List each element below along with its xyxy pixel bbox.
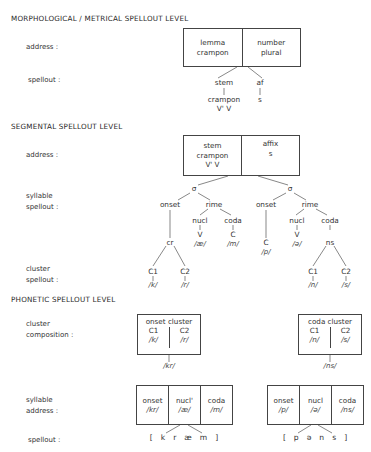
node-nucl-1: nucl (192, 216, 207, 225)
phon-s: /s/ (342, 281, 350, 290)
divider (169, 327, 170, 348)
segment: p (294, 433, 299, 442)
c2-phon: /r/ (169, 335, 200, 344)
cell-label: onset (143, 396, 163, 406)
phon-n: /n/ (308, 281, 317, 290)
node-C2-coda: C2 (341, 267, 351, 276)
node-C1-coda: C1 (308, 267, 318, 276)
phon-m: /m/ (227, 240, 239, 249)
cell-label: nucl (308, 396, 323, 406)
heading-morphological: MORPHOLOGICAL / METRICAL SPELLOUT LEVEL (11, 14, 188, 23)
syllable-address-box-1: onset /kr/ nucl' /æ/ coda /m/ (136, 385, 233, 425)
heading-phonetic: PHONETIC SPELLOUT LEVEL (11, 295, 116, 304)
col-c2: C2 /s/ (330, 326, 361, 344)
segment: r (173, 433, 176, 442)
segment: k (161, 433, 165, 442)
node-crampon: crampon (208, 95, 240, 104)
node-C-coda-1: C (230, 230, 235, 239)
segment: n (319, 433, 324, 442)
node-coda-2: coda (321, 216, 339, 225)
c1-phon: /k/ (138, 335, 169, 344)
cell-label: onset (274, 396, 294, 406)
node-metrical: V' V (217, 104, 231, 113)
cell-text: crampon (197, 48, 229, 58)
cell-text: V' V (205, 160, 219, 170)
cell-onset: onset /p/ (268, 386, 299, 424)
label-spellout: spellout : (26, 202, 58, 213)
cell-phon: /p/ (279, 405, 288, 415)
cell-phon: /kr/ (147, 405, 159, 415)
c1-phon: /n/ (299, 335, 330, 344)
cell-phon: /æ/ (179, 405, 191, 415)
onset-cluster-result: /kr/ (163, 362, 175, 371)
node-C-onset-2: C (263, 238, 268, 247)
cell-text: number (257, 38, 285, 48)
label-cluster: cluster (26, 319, 50, 330)
node-ns: ns (326, 238, 334, 247)
cell-coda: coda /ns/ (331, 386, 363, 424)
coda-cluster-result: /ns/ (324, 362, 337, 371)
c2-label: C2 (169, 326, 200, 335)
phon-k: /k/ (149, 281, 158, 290)
segment: s (332, 433, 336, 442)
node-cr: cr (166, 238, 173, 247)
phonetic-spellout-2: [pəns] (279, 433, 351, 442)
onset-cluster-box: onset cluster C1 /k/ C2 /r/ (137, 314, 201, 355)
cell-number: number plural (242, 29, 301, 66)
node-onset-1: onset (160, 200, 180, 209)
label-composition: composition : (26, 330, 73, 341)
label-spellout: spellout : (26, 275, 58, 286)
label-spellout: spellout : (28, 75, 60, 86)
bracket-open: [ (150, 433, 153, 442)
node-sigma-1: σ (192, 184, 197, 193)
segment: m (200, 433, 207, 442)
node-rime-2: rime (302, 200, 319, 209)
node-V-1: V (198, 230, 203, 239)
segment: ə (307, 433, 312, 442)
cell-text: stem (204, 141, 222, 151)
label-syllable: syllable (26, 395, 53, 406)
coda-cluster-title: coda cluster (299, 317, 361, 326)
cell-phon: /m/ (211, 405, 223, 415)
node-onset-2: onset (256, 200, 276, 209)
phon-schwa: /ə/ (292, 240, 301, 249)
node-rime-1: rime (206, 200, 223, 209)
bracket-close: ] (215, 433, 218, 442)
syllable-address-box-2: onset /p/ nucl /ə/ coda /ns/ (267, 385, 364, 425)
onset-cluster-title: onset cluster (138, 317, 200, 326)
cell-text: lemma (200, 38, 225, 48)
divider (330, 327, 331, 348)
c2-phon: /s/ (330, 335, 361, 344)
segment: æ (184, 433, 191, 442)
label-address: address : (26, 42, 58, 53)
c1-label: C1 (138, 326, 169, 335)
bracket-open: [ (283, 433, 286, 442)
phonetic-spellout-1: [kræm] (146, 433, 222, 442)
cell-text: affix (263, 139, 279, 149)
cell-label: nucl' (176, 396, 193, 406)
cell-phon: /ns/ (341, 405, 354, 415)
node-af: af (256, 78, 263, 87)
node-coda-1: coda (224, 216, 242, 225)
cell-phon: /ə/ (311, 405, 320, 415)
cell-nucleus: nucl /ə/ (299, 386, 331, 424)
label-address: address : (26, 150, 58, 161)
phon-ae: /æ/ (194, 240, 206, 249)
cell-lemma: lemma crampon (184, 29, 242, 66)
cell-onset: onset /kr/ (137, 386, 168, 424)
col-c1: C1 /n/ (299, 326, 330, 344)
cell-label: coda (208, 396, 225, 406)
c2-label: C2 (330, 326, 361, 335)
segmental-address-box: stem crampon V' V affix s (183, 135, 300, 176)
bracket-close: ] (344, 433, 347, 442)
morph-address-box: lemma crampon number plural (183, 28, 301, 67)
node-sigma-2: σ (288, 184, 293, 193)
cell-coda: coda /m/ (200, 386, 232, 424)
phon-r: /r/ (181, 281, 189, 290)
col-c1: C1 /k/ (138, 326, 169, 344)
node-V-2: V (295, 230, 300, 239)
cell-text: crampon (197, 151, 229, 161)
node-stem: stem (215, 78, 233, 87)
col-c2: C2 /r/ (169, 326, 200, 344)
cell-text: s (269, 149, 273, 159)
